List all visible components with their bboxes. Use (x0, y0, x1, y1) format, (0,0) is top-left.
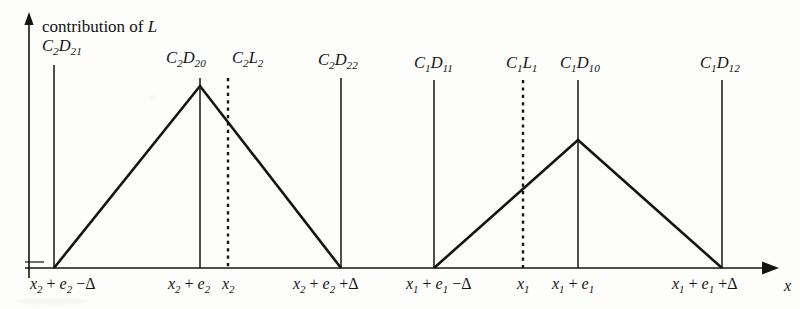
marker-label-d-sub: 1 (532, 62, 538, 74)
marker-label-d: D (59, 36, 71, 55)
tick-operator: + (181, 275, 198, 292)
y-axis-title-variable: L (148, 17, 157, 36)
tick-var2: e (198, 275, 205, 292)
marker-label-d-sub: 22 (347, 59, 358, 71)
marker-label-c1-d10: C1D10 (560, 55, 600, 75)
marker-label-d: D (431, 53, 443, 72)
tick-label-x2-plus-e2-plus-delta: x2 + e2 +Δ (293, 276, 358, 295)
marker-label-c: C (318, 50, 329, 69)
marker-label-c: C (42, 36, 53, 55)
marker-label-c1-l1: C1L1 (506, 55, 537, 75)
tick-delta: +Δ (335, 275, 358, 292)
figure-canvas (0, 0, 800, 309)
tick-label-x1: x1 (517, 276, 530, 295)
marker-label-d: D (577, 53, 589, 72)
tick-var2: e (436, 275, 443, 292)
marker-label-d-sub: 21 (71, 45, 82, 57)
tick-label-x1-plus-e1: x1 + e1 (552, 276, 594, 295)
marker-label-d-sub: 11 (443, 62, 453, 74)
tick-var2: e (582, 275, 589, 292)
marker-label-c2-l2: C2L2 (232, 50, 263, 70)
marker-label-c: C (232, 48, 243, 67)
tick-delta: −Δ (72, 275, 95, 292)
x-axis-label: x (784, 277, 791, 295)
x-axis (25, 262, 779, 275)
marker-label-c: C (560, 53, 571, 72)
marker-label-d-sub: 20 (195, 57, 206, 69)
tick-var2: e (702, 275, 709, 292)
marker-label-c1-d12: C1D12 (700, 55, 740, 75)
marker-label-d: D (183, 48, 195, 67)
y-axis-title: contribution of L (42, 18, 157, 35)
marker-label-c1-d11: C1D11 (414, 55, 453, 75)
tick-var2: e (323, 275, 330, 292)
tick-operator: + (565, 275, 582, 292)
tick-delta: +Δ (714, 275, 737, 292)
tick-var2-sub: 2 (205, 283, 210, 295)
tick-label-x2-plus-e2-minus-delta: x2 + e2 −Δ (30, 276, 95, 295)
marker-label-c2-d20: C2D20 (166, 50, 206, 70)
contribution-of-l-figure: contribution of L C2D21C2D20C2L2C2D22C1D… (0, 0, 800, 309)
marker-label-c: C (414, 53, 425, 72)
marker-label-d: L (523, 53, 532, 72)
tick-operator: + (306, 275, 323, 292)
marker-label-d: D (717, 53, 729, 72)
marker-label-d: D (335, 50, 347, 69)
marker-label-c2-d21: C2D21 (42, 38, 82, 58)
tick-label-x1-plus-e1-minus-delta: x1 + e1 −Δ (406, 276, 471, 295)
tick-operator: + (685, 275, 702, 292)
marker-label-c2-d22: C2D22 (318, 52, 358, 72)
marker-label-d: L (249, 48, 258, 67)
tick-label-x1-plus-e1-plus-delta: x1 + e1 +Δ (672, 276, 737, 295)
tick-var2: e (60, 275, 67, 292)
tick-operator: + (43, 275, 60, 292)
marker-label-d-sub: 12 (729, 62, 740, 74)
marker-label-c: C (700, 53, 711, 72)
marker-label-d-sub: 10 (589, 62, 600, 74)
y-axis-title-text: contribution of (42, 17, 144, 36)
tick-label-x2-plus-e2: x2 + e2 (168, 276, 210, 295)
marker-label-c: C (506, 53, 517, 72)
tick-label-x2: x2 (222, 276, 235, 295)
triangle-curve-2 (54, 86, 341, 268)
tick-delta: −Δ (448, 275, 471, 292)
tick-var-sub: 1 (524, 283, 529, 295)
y-axis (24, 12, 33, 278)
tick-var-sub: 2 (229, 283, 234, 295)
tick-operator: + (419, 275, 436, 292)
marker-label-c: C (166, 48, 177, 67)
tick-var2-sub: 1 (589, 283, 594, 295)
marker-label-d-sub: 2 (258, 57, 264, 69)
